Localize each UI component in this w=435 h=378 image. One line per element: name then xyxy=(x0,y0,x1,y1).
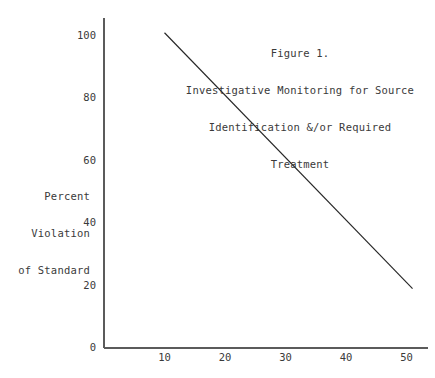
y-axis-title-line-2: Violation xyxy=(8,227,90,239)
chart-title-line-3: Identification &/or Required xyxy=(168,121,432,133)
chart-title-line-1: Figure 1. xyxy=(168,47,432,59)
chart-title-line-2: Investigative Monitoring for Source xyxy=(168,84,432,96)
x-tick-label: 50 xyxy=(392,351,422,363)
y-tick-label: 60 xyxy=(62,154,96,166)
x-tick-label: 20 xyxy=(210,351,240,363)
y-tick-label: 100 xyxy=(62,29,96,41)
y-axis-title-line-1: Percent xyxy=(8,190,90,202)
y-axis-title-line-3: of Standard xyxy=(8,264,90,276)
y-tick-label: 40 xyxy=(62,216,96,228)
y-tick-label: 20 xyxy=(62,279,96,291)
x-tick-label: 30 xyxy=(271,351,301,363)
x-tick-label: 40 xyxy=(331,351,361,363)
figure-container: Figure 1. Investigative Monitoring for S… xyxy=(0,0,435,378)
x-tick-label: 10 xyxy=(150,351,180,363)
y-tick-label: 80 xyxy=(62,91,96,103)
y-tick-label: 0 xyxy=(62,341,96,353)
chart-title-line-4: Treatment xyxy=(168,158,432,170)
chart-title: Figure 1. Investigative Monitoring for S… xyxy=(168,22,432,195)
